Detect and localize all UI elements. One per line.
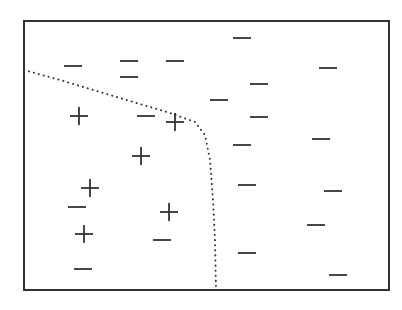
plus-icon [160,203,178,221]
decision-boundary [24,70,216,290]
plus-icon [81,179,99,197]
plus-icon [70,107,88,125]
negative-examples [64,38,347,275]
classification-diagram: Classification with nonlinear decision b… [0,0,402,310]
positive-examples [70,107,184,243]
plus-icon [75,225,93,243]
plot-frame [24,21,389,290]
plus-icon [132,147,150,165]
plus-icon [166,113,184,131]
